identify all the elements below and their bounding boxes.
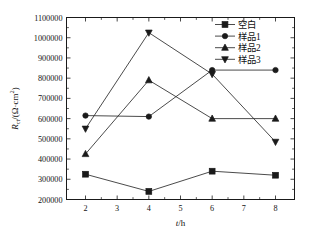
marker-square	[146, 189, 152, 195]
y-axis-tick-labels: 2000003000004000005000006000007000008000…	[34, 14, 63, 205]
legend-item-1[interactable]: 空白	[215, 19, 256, 30]
marker-triangle-up	[272, 115, 279, 121]
y-tick-label: 300000	[38, 175, 63, 184]
y-tick-label: 1000000	[34, 34, 63, 43]
x-tick-label: 7	[242, 204, 246, 213]
legend-item-4[interactable]: 样品3	[215, 54, 261, 65]
x-tick-label: 3	[115, 204, 119, 213]
y-tick-label: 400000	[38, 155, 63, 164]
y-tick-label: 200000	[38, 196, 63, 205]
chart-figure: 2000003000004000005000006000007000008000…	[0, 0, 317, 237]
legend-label: 样品1	[238, 31, 261, 42]
x-tick-label: 5	[178, 204, 182, 213]
x-tick-label: 2	[83, 204, 87, 213]
marker-circle	[273, 67, 278, 72]
series-line	[86, 70, 276, 117]
y-tick-label: 500000	[38, 135, 63, 144]
marker-triangle-up	[145, 77, 152, 83]
marker-square	[222, 22, 228, 28]
axis-titles: t/hRct/(Ω·cm2)	[8, 87, 185, 227]
legend-item-3[interactable]: 样品2	[215, 42, 261, 53]
marker-circle	[222, 33, 227, 38]
y-tick-label: 600000	[38, 115, 63, 124]
marker-triangle-down	[82, 126, 89, 132]
y-tick-label: 1100000	[34, 14, 62, 23]
marker-circle	[146, 114, 151, 119]
y-tick-label: 900000	[38, 54, 63, 63]
x-tick-label: 8	[273, 204, 277, 213]
marker-triangle-down	[272, 139, 279, 145]
x-tick-label: 4	[147, 204, 151, 213]
marker-square	[209, 168, 215, 174]
marker-triangle-down	[222, 57, 229, 63]
marker-triangle-up	[209, 115, 216, 121]
marker-circle	[83, 113, 88, 118]
y-axis-title: Rct/(Ω·cm2)	[8, 87, 20, 130]
x-axis-title: t/h	[176, 218, 186, 228]
marker-triangle-down	[145, 30, 152, 36]
legend-item-2[interactable]: 样品1	[215, 31, 261, 42]
series-1	[83, 168, 279, 194]
chart-legend: 空白样品1样品2样品3	[215, 19, 261, 65]
line-chart: 2000003000004000005000006000007000008000…	[0, 0, 317, 237]
x-tick-label: 6	[210, 204, 214, 213]
marker-triangle-up	[222, 44, 229, 50]
series-line	[86, 80, 276, 154]
marker-square	[273, 172, 279, 178]
legend-label: 空白	[238, 19, 256, 30]
y-tick-label: 800000	[38, 74, 63, 83]
marker-square	[83, 171, 89, 177]
series-line	[86, 171, 276, 191]
y-tick-label: 700000	[38, 94, 63, 103]
x-axis-tick-labels: 2345678	[83, 204, 277, 213]
legend-label: 样品2	[238, 42, 261, 53]
series-2	[83, 67, 278, 119]
legend-label: 样品3	[238, 54, 261, 65]
